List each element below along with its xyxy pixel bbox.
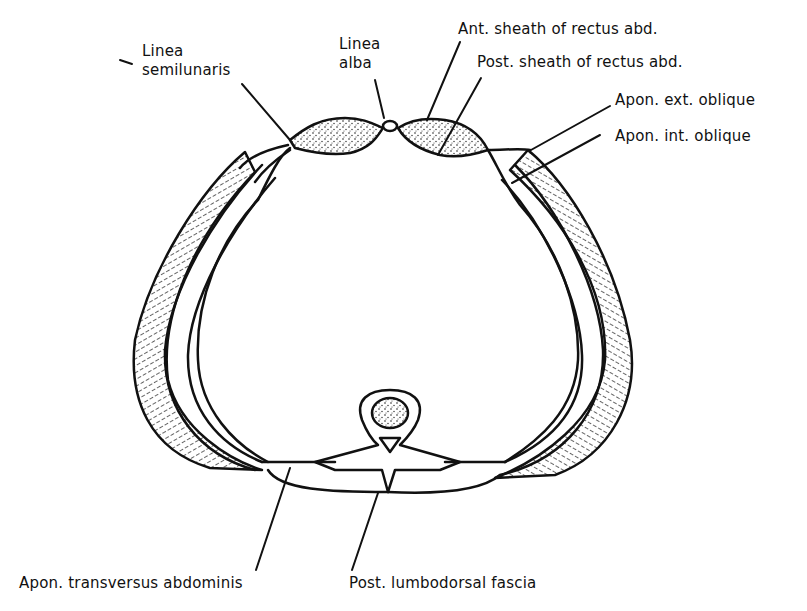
vertebra (315, 390, 460, 492)
label-apon-int-oblique: Apon. int. oblique (615, 127, 751, 146)
label-line: alba (339, 54, 380, 73)
label-post-lumbodorsal: Post. lumbodorsal fascia (349, 574, 536, 593)
label-linea-alba: Linea alba (339, 35, 380, 73)
label-line: semilunaris (142, 61, 231, 80)
rectus-left (290, 118, 383, 154)
label-apon-transversus: Apon. transversus abdominis (19, 574, 243, 593)
rectus-right (398, 119, 488, 157)
label-post-sheath: Post. sheath of rectus abd. (477, 53, 683, 72)
label-apon-ext-oblique: Apon. ext. oblique (615, 91, 755, 110)
label-ant-sheath: Ant. sheath of rectus abd. (458, 20, 658, 39)
linea-alba-node (383, 121, 397, 131)
label-line: Linea (142, 42, 231, 61)
anatomy-diagram: Linea semilunaris Linea alba Ant. sheath… (0, 0, 807, 611)
label-line: Linea (339, 35, 380, 54)
label-linea-semilunaris: Linea semilunaris (142, 42, 231, 80)
